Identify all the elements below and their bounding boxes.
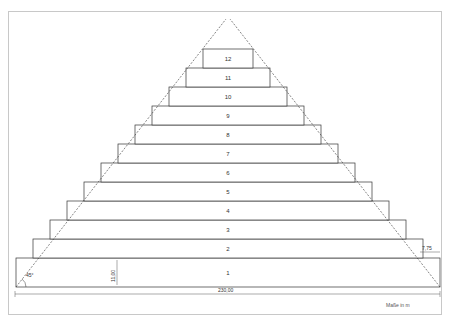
step-offset-label: 7,75	[422, 245, 432, 251]
tier-label: 11	[225, 75, 232, 81]
tier-label: 12	[225, 56, 232, 62]
units-note: Maße in m	[386, 302, 410, 308]
base-width-label: 230,00	[218, 287, 234, 293]
angle-label: 45°	[26, 272, 34, 278]
tier-height-label: 11,00	[110, 270, 116, 282]
pyramid-diagram: 123456789101112 45° 11,00 7,75 230,00	[0, 0, 450, 324]
tier-label: 10	[225, 94, 232, 100]
